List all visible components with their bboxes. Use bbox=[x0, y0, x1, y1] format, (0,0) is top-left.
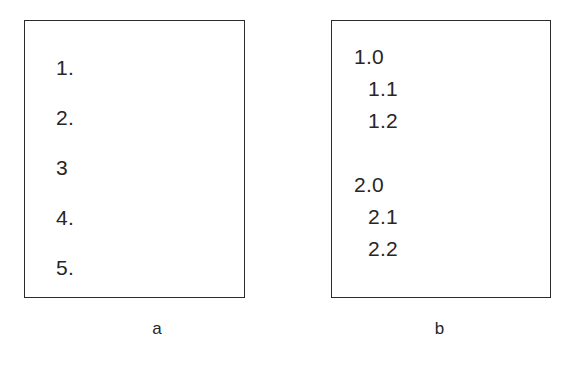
panel-b-caption: b bbox=[296, 319, 577, 339]
list-item: 2.0 bbox=[354, 169, 398, 201]
flat-numbered-list: 1. 2. 3 4. 5. bbox=[56, 43, 74, 293]
hierarchical-numbered-list: 1.0 1.1 1.2 2.0 2.1 2.2 bbox=[354, 41, 398, 265]
list-item: 2.1 bbox=[354, 201, 398, 233]
panel-b: 1.0 1.1 1.2 2.0 2.1 2.2 b bbox=[290, 0, 577, 367]
panel-a-caption: a bbox=[12, 319, 302, 339]
list-item: 1.2 bbox=[354, 105, 398, 137]
list-item: 3 bbox=[56, 143, 74, 193]
list-item: 2.2 bbox=[354, 233, 398, 265]
list-item-spacer bbox=[354, 137, 398, 169]
list-item: 1.1 bbox=[354, 73, 398, 105]
list-item: 4. bbox=[56, 193, 74, 243]
list-item: 5. bbox=[56, 243, 74, 293]
panel-b-box: 1.0 1.1 1.2 2.0 2.1 2.2 bbox=[331, 20, 551, 298]
panel-a-box: 1. 2. 3 4. 5. bbox=[24, 20, 245, 298]
panel-a: 1. 2. 3 4. 5. a bbox=[0, 0, 290, 367]
list-item: 1.0 bbox=[354, 41, 398, 73]
list-item: 1. bbox=[56, 43, 74, 93]
figure-root: 1. 2. 3 4. 5. a 1.0 1.1 1.2 2.0 2.1 2.2 … bbox=[0, 0, 577, 367]
list-item: 2. bbox=[56, 93, 74, 143]
